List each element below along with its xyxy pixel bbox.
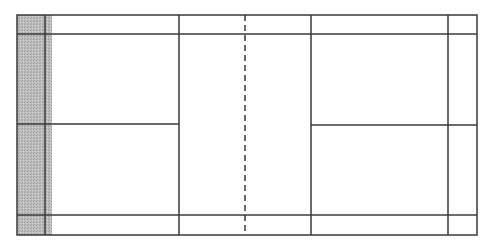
- shaded-area-rect: [17, 15, 52, 235]
- court-lines: [17, 15, 477, 235]
- court-diagram: [0, 0, 487, 251]
- shaded-area: [17, 15, 52, 235]
